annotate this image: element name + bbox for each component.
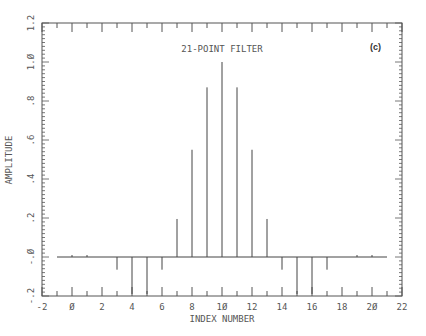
x-tick-label: Ø [69,302,75,312]
y-tick-label: .8 [26,96,36,107]
x-tick-label: 4 [129,302,134,312]
y-tick-label: .4 [26,174,36,185]
stem-series [57,62,387,294]
axis-tick-labels: -2Ø24681Ø121416182Ø22-.2-.Ø.2.4.6.81.Ø1.… [26,15,407,312]
x-axis-label: INDEX NUMBER [189,314,255,324]
y-tick-label: -.Ø [26,248,36,265]
x-tick-label: 22 [397,302,408,312]
chart-title: 21-POINT FILTER [181,44,263,54]
x-tick-label: -2 [37,302,48,312]
x-tick-label: 1Ø [217,302,228,312]
x-tick-label: 8 [189,302,194,312]
x-tick-label: 18 [337,302,348,312]
x-tick-label: 6 [159,302,164,312]
chart-svg: -2Ø24681Ø121416182Ø22-.2-.Ø.2.4.6.81.Ø1.… [0,0,426,336]
x-tick-label: 2Ø [367,302,378,312]
y-tick-label: 1.Ø [26,53,36,70]
x-tick-label: 14 [277,302,288,312]
x-tick-label: 12 [247,302,258,312]
x-tick-label: 16 [307,302,318,312]
y-tick-label: .6 [26,135,36,146]
y-axis-label: AMPLITUDE [4,136,14,185]
y-tick-label: 1.2 [26,15,36,31]
panel-label: (c) [370,42,381,52]
y-tick-label: .2 [26,213,36,224]
stem-chart: -2Ø24681Ø121416182Ø22-.2-.Ø.2.4.6.81.Ø1.… [0,0,426,336]
y-tick-label: -.2 [26,288,36,304]
x-tick-label: 2 [99,302,104,312]
